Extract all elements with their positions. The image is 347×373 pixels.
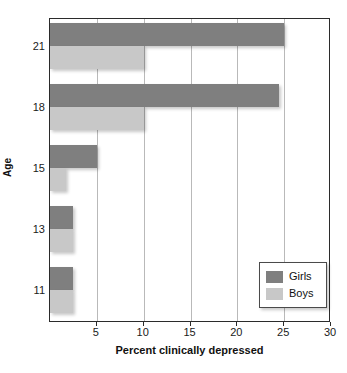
bar-girls-age-21 xyxy=(50,23,284,46)
y-tick-label-18: 18 xyxy=(5,101,45,113)
bar-girls-age-15 xyxy=(50,145,97,168)
x-tick-label-15: 15 xyxy=(170,326,210,338)
x-tick-label-30: 30 xyxy=(310,326,347,338)
x-tick-label-10: 10 xyxy=(123,326,163,338)
legend-label-boys: Boys xyxy=(289,288,313,299)
x-tick-label-25: 25 xyxy=(263,326,303,338)
legend-item-girls: Girls xyxy=(266,268,320,285)
x-tick-label-5: 5 xyxy=(76,326,116,338)
bar-chart: Age 2118151311 51015202530 Percent clini… xyxy=(0,0,347,373)
y-axis-tick-labels: 2118151311 xyxy=(0,18,45,322)
bar-girls-age-13 xyxy=(50,206,73,229)
bar-girls-age-18 xyxy=(50,84,279,107)
legend-label-girls: Girls xyxy=(289,271,312,282)
bar-boys-age-11 xyxy=(50,290,73,313)
y-tick-label-11: 11 xyxy=(5,284,45,296)
y-tick-label-15: 15 xyxy=(5,162,45,174)
gridline xyxy=(191,19,192,321)
legend-swatch-girls xyxy=(266,271,283,283)
x-tick-label-20: 20 xyxy=(216,326,256,338)
legend-item-boys: Boys xyxy=(266,285,320,302)
x-axis-tick-labels: 51015202530 xyxy=(49,326,330,342)
bar-boys-age-18 xyxy=(50,107,144,130)
gridline xyxy=(144,19,145,321)
bar-boys-age-21 xyxy=(50,46,144,69)
chart-legend: Girls Boys xyxy=(259,262,327,308)
y-tick-label-13: 13 xyxy=(5,223,45,235)
x-axis-title: Percent clinically depressed xyxy=(49,344,330,356)
bar-girls-age-11 xyxy=(50,267,73,290)
bar-boys-age-15 xyxy=(50,168,66,191)
bar-boys-age-13 xyxy=(50,229,73,252)
gridline xyxy=(237,19,238,321)
legend-swatch-boys xyxy=(266,288,283,300)
y-tick-label-21: 21 xyxy=(5,40,45,52)
